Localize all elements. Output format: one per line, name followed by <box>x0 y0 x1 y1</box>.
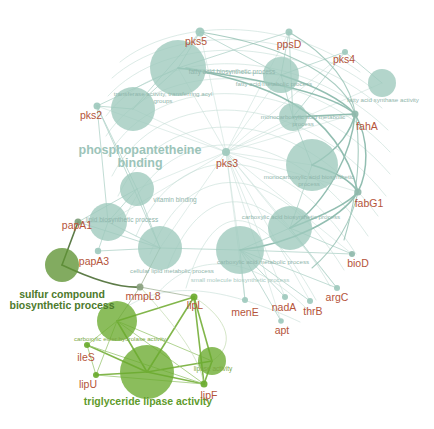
gene-node-ileS[interactable] <box>84 342 90 348</box>
network-graph-figure: fatty acid biosynthetic processfatty aci… <box>0 0 434 429</box>
gene-node-menE[interactable] <box>242 297 248 303</box>
term-node-carboxylic-acid-metabolic-process[interactable] <box>216 226 264 274</box>
graph-canvas <box>0 0 434 429</box>
term-node-transferase-activity-transferring-acyl-groups[interactable] <box>111 87 155 131</box>
term-node-monocarboxylic-acid-biosynthetic-process[interactable] <box>286 139 338 191</box>
term-node-carboxylic-acid-biosynthetic-process[interactable] <box>268 206 312 250</box>
gene-node-apt[interactable] <box>278 318 284 324</box>
gene-node-bioD[interactable] <box>349 251 355 257</box>
term-node-monocarboxylic-acid-metabolic-process[interactable] <box>279 103 307 131</box>
gene-node-ppsD[interactable] <box>286 29 293 36</box>
gene-node-lipU[interactable] <box>93 372 99 378</box>
term-node-lipase-activity[interactable] <box>198 347 226 375</box>
gene-node-papA3[interactable] <box>95 248 101 254</box>
gene-node-fabG1[interactable] <box>355 189 362 196</box>
gene-node-argC[interactable] <box>334 285 340 291</box>
gene-node-pks4[interactable] <box>342 49 348 55</box>
term-node-fatty-acid-biosynthetic-process[interactable] <box>150 40 206 96</box>
gene-node-nadA[interactable] <box>282 294 288 300</box>
node-layer <box>45 28 396 400</box>
gene-node-lipL[interactable] <box>191 294 198 301</box>
term-node-triglyceride-lipase-activity[interactable] <box>120 345 174 399</box>
term-node-cellular-lipid-metabolic-process[interactable] <box>138 226 182 270</box>
gene-node-lipF[interactable] <box>201 381 208 388</box>
gene-node-mmpL8[interactable] <box>137 284 144 291</box>
gene-node-thrB[interactable] <box>307 298 313 304</box>
gene-node-pks5[interactable] <box>196 28 205 37</box>
term-node-fatty-acid-synthase-activity[interactable] <box>368 69 396 97</box>
gene-node-pks3[interactable] <box>222 148 230 156</box>
term-node-lipid-biosynthetic-process[interactable] <box>89 203 127 241</box>
gene-node-papA1[interactable] <box>75 219 82 226</box>
gene-node-pks2[interactable] <box>94 103 101 110</box>
gene-node-fahA[interactable] <box>352 111 359 118</box>
term-node-vitamin-binding[interactable] <box>120 172 154 206</box>
term-node-carboxylic-ester-hydrolase-activity[interactable] <box>97 301 137 341</box>
term-node-sulfur-compound-biosynthetic-process[interactable] <box>45 248 79 282</box>
term-node-fatty-acid-metabolic-process[interactable] <box>263 57 299 93</box>
